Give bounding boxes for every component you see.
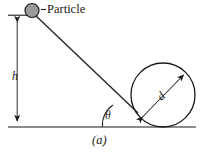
figure-caption: (a) [92, 134, 107, 147]
figure-container: Particle h d θ (a) [0, 0, 200, 152]
particle-marker [25, 4, 39, 18]
angle-label: θ [105, 110, 111, 122]
diagram-svg [0, 0, 200, 152]
particle-label: Particle [47, 3, 85, 16]
height-label: h [12, 70, 18, 82]
incline-line [35, 15, 139, 114]
